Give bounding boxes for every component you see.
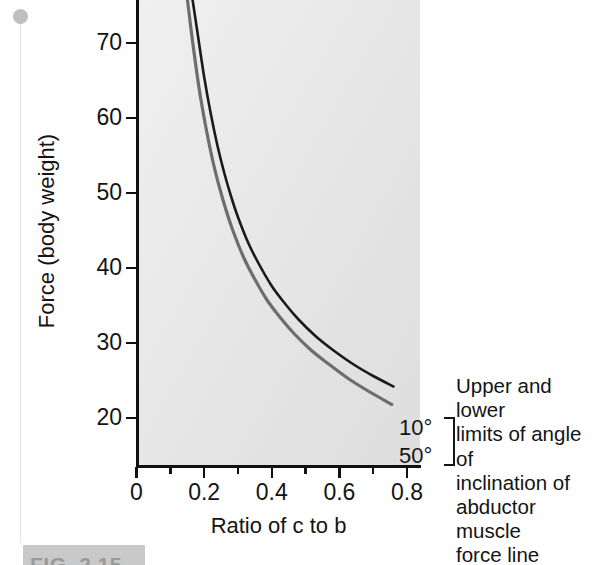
plot-background xyxy=(138,0,420,467)
y-axis-title: Force (body weight) xyxy=(34,81,60,381)
y-tick-label: 70 xyxy=(62,31,122,54)
series-label-upper: 10° xyxy=(399,417,432,439)
annotation-line: force line xyxy=(456,543,595,565)
x-tick-label: 0.4 xyxy=(237,481,307,504)
x-tick-minor xyxy=(304,467,307,474)
y-tick-label: 30 xyxy=(62,331,122,354)
y-axis-line xyxy=(136,0,139,467)
x-tick-minor xyxy=(372,467,375,474)
y-tick xyxy=(126,117,137,120)
scan-artifact-dot xyxy=(13,9,28,24)
annotation-line: Upper and lower xyxy=(456,374,595,422)
figure-caption: FIG. 2.15 xyxy=(30,554,122,565)
figure-page: 203040506070 00.20.40.60.8 Force (body w… xyxy=(0,0,595,565)
annotation-line: abductor muscle xyxy=(456,495,595,543)
x-tick-major xyxy=(406,467,409,478)
annotation-bracket xyxy=(444,417,455,466)
x-tick-minor xyxy=(169,467,172,474)
y-tick xyxy=(126,42,137,45)
y-tick xyxy=(126,192,137,195)
y-tick-label: 60 xyxy=(62,106,122,129)
x-tick-major xyxy=(338,467,341,478)
x-tick-label: 0.8 xyxy=(372,481,442,504)
x-tick-major xyxy=(135,467,138,478)
annotation-line: inclination of xyxy=(456,471,595,495)
annotation-line: limits of angle of xyxy=(456,422,595,470)
y-tick xyxy=(126,417,137,420)
y-tick-label: 40 xyxy=(62,256,122,279)
y-tick xyxy=(126,267,137,270)
y-tick-label: 50 xyxy=(62,181,122,204)
y-tick xyxy=(126,342,137,345)
x-tick-label: 0 xyxy=(102,481,172,504)
x-tick-label: 0.6 xyxy=(304,481,374,504)
x-tick-major xyxy=(203,467,206,478)
x-tick-label: 0.2 xyxy=(169,481,239,504)
series-label-lower: 50° xyxy=(399,445,432,467)
y-tick-label: 20 xyxy=(62,406,122,429)
x-axis-title: Ratio of c to b xyxy=(136,513,421,539)
x-axis-line xyxy=(136,465,421,468)
y-axis-tick-labels: 203040506070 xyxy=(58,0,122,480)
x-tick-minor xyxy=(237,467,240,474)
scan-artifact-line xyxy=(20,18,21,543)
annotation-text: Upper and lowerlimits of angle ofinclina… xyxy=(456,374,595,565)
x-tick-major xyxy=(271,467,274,478)
